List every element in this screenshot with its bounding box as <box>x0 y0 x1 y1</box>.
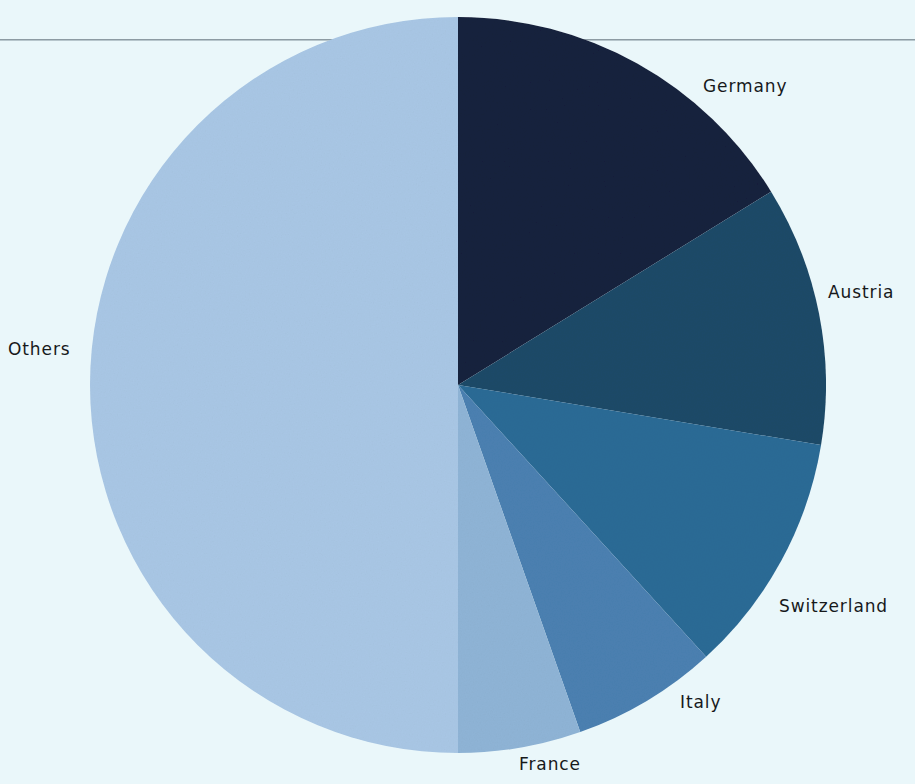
pie-label-austria: Austria <box>828 284 894 301</box>
pie-chart <box>0 0 915 784</box>
pie-label-others: Others <box>8 341 71 358</box>
pie-chart-svg <box>0 0 915 784</box>
pie-label-france: France <box>519 756 581 773</box>
pie-slice-others[interactable] <box>90 17 458 753</box>
pie-label-italy: Italy <box>680 694 721 711</box>
pie-label-germany: Germany <box>703 78 787 95</box>
chart-page: Germany Austria Switzerland Italy France… <box>0 0 915 784</box>
pie-label-switzerland: Switzerland <box>779 598 888 615</box>
